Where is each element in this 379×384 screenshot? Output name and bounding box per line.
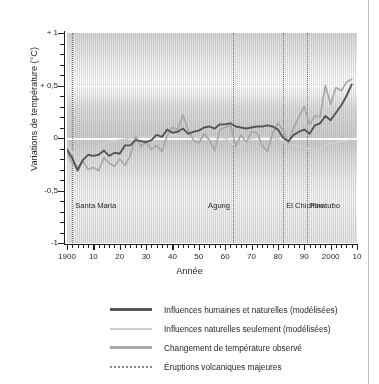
y-tick-minor	[60, 233, 64, 234]
x-tick	[67, 245, 68, 250]
x-tick	[331, 245, 332, 250]
x-tick	[225, 245, 226, 250]
x-tick	[146, 245, 147, 250]
legend-solid-line-icon	[110, 346, 152, 349]
x-tick-minor	[273, 245, 274, 248]
x-tick-minor	[78, 245, 79, 248]
legend-label: Influences humaines et naturelles (modél…	[164, 305, 337, 315]
x-tick-minor	[315, 245, 316, 248]
x-tick-minor	[294, 245, 295, 248]
x-tick-minor	[88, 245, 89, 248]
x-tick-minor	[257, 245, 258, 248]
x-tick	[252, 245, 253, 250]
x-tick-minor	[215, 245, 216, 248]
x-tick	[278, 245, 279, 250]
x-tick-label: 2000	[322, 252, 340, 261]
y-tick-minor	[60, 222, 64, 223]
legend-swatch	[110, 366, 152, 368]
y-tick-label: -0,5	[44, 186, 58, 195]
series-line	[67, 84, 352, 170]
x-tick-minor	[288, 245, 289, 248]
x-tick-minor	[141, 245, 142, 248]
x-tick-label: 10	[353, 252, 362, 261]
y-tick-minor	[60, 96, 64, 97]
x-tick-minor	[236, 245, 237, 248]
x-tick-minor	[246, 245, 247, 248]
x-tick-minor	[157, 245, 158, 248]
y-tick-label: + 1	[47, 28, 58, 37]
x-tick-minor	[99, 245, 100, 248]
y-tick-minor	[60, 201, 64, 202]
y-tick-minor	[60, 54, 64, 55]
series-line	[67, 79, 352, 170]
y-tick-minor	[60, 65, 64, 66]
x-tick-minor	[267, 245, 268, 248]
x-tick-minor	[178, 245, 179, 248]
x-tick-label: 10	[89, 252, 98, 261]
legend-swatch	[110, 346, 152, 349]
x-tick-label: 30	[142, 252, 151, 261]
x-tick	[120, 245, 121, 250]
y-tick-minor	[60, 212, 64, 213]
x-tick-label: 20	[115, 252, 124, 261]
x-tick-minor	[104, 245, 105, 248]
x-tick-minor	[299, 245, 300, 248]
x-tick-minor	[151, 245, 152, 248]
x-tick-minor	[136, 245, 137, 248]
y-tick-minor	[60, 149, 64, 150]
x-tick-minor	[220, 245, 221, 248]
x-tick-minor	[341, 245, 342, 248]
x-tick-minor	[125, 245, 126, 248]
x-tick-label: 80	[273, 252, 282, 261]
x-tick-minor	[325, 245, 326, 248]
legend-label: Influences naturelles seulement (modélis…	[164, 324, 331, 334]
x-tick-minor	[262, 245, 263, 248]
x-tick	[172, 245, 173, 250]
climate-attribution-figure: Santa MariaAgungEl ChichonPinatubo + 1+ …	[0, 0, 379, 384]
x-tick-minor	[336, 245, 337, 248]
y-tick-minor	[60, 180, 64, 181]
y-tick	[58, 243, 64, 244]
x-tick-minor	[183, 245, 184, 248]
plot-area: Santa MariaAgungEl ChichonPinatubo	[67, 33, 357, 243]
x-tick-minor	[209, 245, 210, 248]
legend-dotted-line-icon	[110, 366, 152, 368]
y-tick-minor	[60, 128, 64, 129]
legend-solid-line-icon	[110, 328, 152, 330]
y-tick-label: -1	[51, 238, 58, 247]
x-tick	[199, 245, 200, 250]
legend-label: Changement de température observé	[164, 343, 302, 353]
x-tick-label: 40	[168, 252, 177, 261]
y-tick-minor	[60, 117, 64, 118]
x-tick-minor	[194, 245, 195, 248]
x-tick-minor	[352, 245, 353, 248]
legend-item: Influences naturelles seulement (modélis…	[110, 319, 370, 338]
x-tick-label: 90	[300, 252, 309, 261]
x-axis-title: Année	[0, 266, 379, 276]
legend-item: Éruptions volcaniques majeures	[110, 357, 370, 376]
y-tick	[58, 191, 64, 192]
legend-solid-line-icon	[110, 308, 152, 311]
y-tick-minor	[60, 159, 64, 160]
x-tick-minor	[109, 245, 110, 248]
legend-item: Changement de température observé	[110, 338, 370, 357]
eruption-label: Pinatubo	[310, 201, 340, 210]
y-tick	[58, 86, 64, 87]
x-tick-minor	[283, 245, 284, 248]
x-tick	[357, 245, 358, 250]
x-tick-minor	[346, 245, 347, 248]
series-curves	[67, 33, 357, 243]
legend-swatch	[110, 308, 152, 311]
y-tick-minor	[60, 107, 64, 108]
x-tick-minor	[241, 245, 242, 248]
y-tick-label: 0	[54, 133, 58, 142]
x-tick-minor	[83, 245, 84, 248]
x-tick	[93, 245, 94, 250]
chart-legend: Influences humaines et naturelles (modél…	[110, 300, 370, 376]
x-tick-minor	[162, 245, 163, 248]
x-tick-minor	[72, 245, 73, 248]
x-tick-minor	[310, 245, 311, 248]
x-tick-minor	[114, 245, 115, 248]
x-tick-label: 1900	[58, 252, 76, 261]
x-tick-label: 50	[194, 252, 203, 261]
